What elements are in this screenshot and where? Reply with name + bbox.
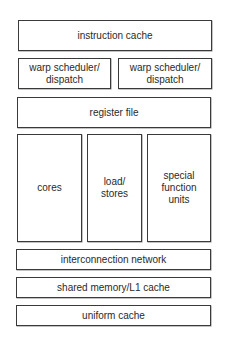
warp-scheduler-block-1: warp scheduler/ dispatch (18, 58, 111, 89)
warp-scheduler-label-2: warp scheduler/ dispatch (130, 62, 201, 86)
interconnection-network-block: interconnection network (16, 249, 211, 270)
load-stores-label: load/ stores (101, 176, 128, 200)
shared-memory-label: shared memory/L1 cache (57, 282, 170, 294)
register-file-label: register file (90, 107, 139, 119)
uniform-cache-label: uniform cache (82, 310, 145, 322)
register-file-block: register file (17, 97, 211, 128)
cores-label: cores (37, 182, 61, 194)
cores-block: cores (17, 134, 82, 242)
special-function-units-label: special function units (161, 170, 196, 206)
interconnection-network-label: interconnection network (61, 254, 167, 266)
warp-scheduler-label-1: warp scheduler/ dispatch (29, 62, 100, 86)
instruction-cache-label: instruction cache (77, 30, 152, 42)
instruction-cache-block: instruction cache (18, 20, 212, 51)
shared-memory-block: shared memory/L1 cache (16, 277, 211, 298)
uniform-cache-block: uniform cache (16, 305, 211, 326)
load-stores-block: load/ stores (87, 134, 142, 242)
special-function-units-block: special function units (147, 134, 211, 242)
warp-scheduler-block-2: warp scheduler/ dispatch (118, 58, 212, 89)
